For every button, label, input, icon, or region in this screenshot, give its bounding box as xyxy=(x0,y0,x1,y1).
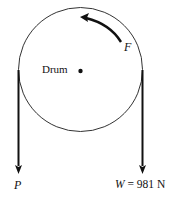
weight-value: 981 N xyxy=(137,178,165,190)
force-f-label: F xyxy=(124,40,131,55)
drum-diagram: Drum F P W = 981 N xyxy=(0,0,175,199)
diagram-canvas xyxy=(0,0,175,199)
drum-label: Drum xyxy=(42,63,68,75)
force-p-label: P xyxy=(14,178,21,193)
arrowhead-p xyxy=(15,165,22,174)
arrowhead-w xyxy=(139,165,146,174)
weight-var: W xyxy=(115,178,125,190)
drum-center-dot xyxy=(78,69,82,73)
weight-eq: = xyxy=(127,178,134,190)
weight-label: W = 981 N xyxy=(115,178,165,190)
force-f-arrow xyxy=(86,18,121,42)
